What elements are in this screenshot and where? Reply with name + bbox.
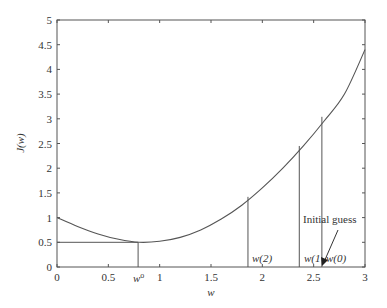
w-opt-label: wo [133,271,144,284]
y-axis-label: J(w) [14,133,27,153]
w0-label: w(0) [326,252,347,265]
w2-label: w(2) [252,252,273,265]
y-tick-label: 3 [47,113,53,125]
y-tick-label: 2 [47,162,53,174]
y-tick-label: 1 [47,212,53,224]
x-tick-label: 1 [157,271,163,283]
axes-frame [57,20,365,267]
x-tick-label: 0 [54,271,60,283]
marker-lines [57,117,322,267]
y-tick-label: 4.5 [38,39,52,51]
w1-label: w(1 [304,252,321,265]
y-tick-label: 0 [47,261,53,273]
x-tick-label: 0.5 [101,271,115,283]
y-tick-label: 5 [47,14,53,26]
x-axis-label: w [207,286,215,298]
y-tick-label: 3.5 [38,88,52,100]
x-tick-label: 1.5 [204,271,218,283]
y-tick-label: 2.5 [38,138,52,150]
y-tick-label: 1.5 [38,187,52,199]
x-tick-label: 3 [362,271,368,283]
y-ticks: 00.511.522.533.544.55 [38,14,365,273]
x-tick-label: 2 [260,271,266,283]
x-tick-label: 2.5 [307,271,321,283]
y-tick-label: 0.5 [38,236,52,248]
x-ticks: 00.511.522.53 [54,20,368,283]
initial-guess-label: Initial guess [303,213,356,225]
y-tick-label: 4 [47,63,53,75]
chart: 00.511.522.53 00.511.522.533.544.55 w J(… [0,0,387,308]
